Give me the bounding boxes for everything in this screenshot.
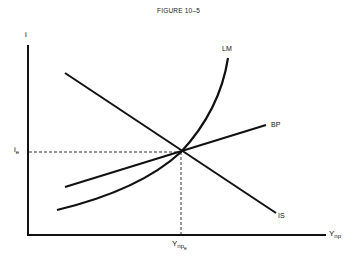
bp-curve <box>65 125 266 187</box>
y-axis-label: i <box>25 31 27 39</box>
bp-label: BP <box>271 121 280 128</box>
x-axis-label: Ynp <box>329 230 341 239</box>
x-axis-label-sub: np <box>334 233 341 239</box>
ynpe-label: Ynpe <box>172 240 187 251</box>
islm-bp-diagram <box>0 0 357 267</box>
ie-label-sub: e <box>16 149 19 155</box>
is-curve <box>65 73 276 213</box>
lm-label: LM <box>222 45 232 52</box>
is-label: IS <box>278 212 285 219</box>
lm-curve <box>57 58 228 210</box>
ie-label: ie <box>14 146 19 155</box>
ynpe-label-sub: npe <box>177 243 186 249</box>
